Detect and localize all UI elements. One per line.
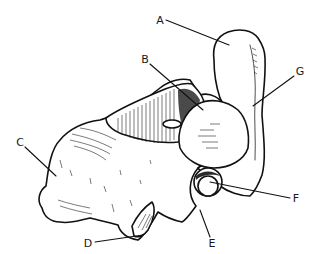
label-f: F	[293, 193, 299, 204]
scapula-illustration	[0, 0, 314, 254]
label-b: B	[141, 54, 149, 65]
label-a: A	[156, 15, 164, 26]
leader-line-e	[200, 210, 210, 237]
label-c: C	[16, 137, 24, 148]
foramen-ring-inner	[198, 176, 218, 196]
label-d: D	[84, 238, 92, 249]
label-e: E	[209, 238, 216, 249]
leader-line-a	[166, 20, 229, 45]
glenoid-head	[179, 101, 249, 168]
scapula-diagram: A B C D E F G	[0, 0, 314, 254]
fossa-notch	[163, 120, 181, 128]
label-g: G	[296, 66, 305, 77]
